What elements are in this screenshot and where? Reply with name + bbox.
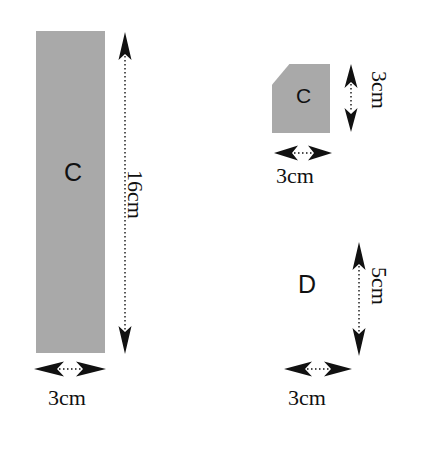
dimension-arrow-pentagon-c-width <box>272 142 334 164</box>
dimension-label-region-d-width: 3cm <box>288 387 326 409</box>
dimension-arrow-region-d-width <box>282 358 354 380</box>
dimension-label-rect-c-width: 3cm <box>48 387 86 409</box>
shape-label-pentagon-c: C <box>296 85 311 106</box>
shape-label-rectangle-c: C <box>64 160 82 185</box>
diagram-canvas: C 16cm 3cm C 3cm 3 <box>0 0 423 449</box>
dimension-arrow-rect-c-width <box>32 358 108 380</box>
dimension-label-pentagon-c-height: 3cm <box>368 71 390 109</box>
dimension-arrow-pentagon-c-height <box>340 62 362 134</box>
dimension-label-region-d-height: 5cm <box>368 267 390 305</box>
dimension-label-pentagon-c-width: 3cm <box>276 165 314 187</box>
shape-rectangle-c <box>36 31 105 353</box>
shape-label-region-d: D <box>298 272 316 297</box>
dimension-label-rect-c-height: 16cm <box>124 170 146 219</box>
